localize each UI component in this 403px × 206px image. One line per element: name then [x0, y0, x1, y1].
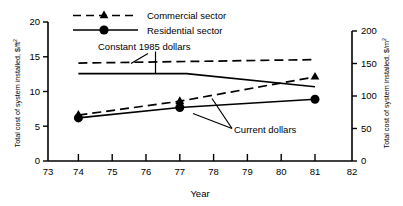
right-axis-title: Total cost of system installed, $/m2 [381, 18, 391, 168]
ytick-left-15: 15 [29, 51, 40, 62]
series-commercial-constant-dollars [78, 60, 315, 64]
x-axis: 73 74 75 76 77 78 79 80 81 82 Year [43, 154, 358, 199]
left-axis-title-text: Total cost of system installed, $/ft [13, 42, 22, 147]
legend-item-commercial: Commercial sector [73, 10, 226, 21]
legend-triangle-icon [100, 11, 109, 19]
ytick-left-5: 5 [35, 121, 40, 132]
left-axis: 20 15 10 5 0 [29, 16, 48, 166]
xtick-75: 75 [107, 166, 118, 177]
marker-triangle-81 [311, 72, 320, 80]
xtick-77: 77 [175, 166, 186, 177]
ytick-right-150: 150 [361, 58, 377, 69]
xtick-81: 81 [310, 166, 321, 177]
ytick-right-200: 200 [361, 25, 377, 36]
legend-label-commercial: Commercial sector [147, 10, 226, 21]
annotation-current-dollars: Current dollars [234, 124, 297, 135]
legend-item-residential: Residential sector [73, 25, 223, 36]
xtick-82: 82 [347, 166, 358, 177]
ytick-right-50: 50 [361, 123, 372, 134]
xtick-73: 73 [43, 166, 54, 177]
right-axis-title-text: Total cost of system installed, $/m [382, 41, 391, 148]
annotation-constant-dollars: Constant 1985 dollars [98, 41, 191, 52]
xtick-74: 74 [73, 166, 84, 177]
ytick-right-0: 0 [361, 155, 366, 166]
ytick-left-0: 0 [35, 155, 40, 166]
legend-circle-icon [99, 25, 108, 34]
xtick-78: 78 [208, 166, 219, 177]
marker-circle-77 [175, 103, 184, 112]
marker-circle-81 [311, 95, 320, 104]
x-axis-title: Year [190, 188, 209, 199]
right-axis: 200 150 100 50 0 [352, 25, 377, 166]
ytick-left-20: 20 [29, 16, 40, 27]
xtick-80: 80 [276, 166, 287, 177]
left-axis-title-sup: 2 [12, 39, 18, 42]
marker-circle-74 [74, 113, 83, 122]
ytick-left-10: 10 [29, 86, 40, 97]
chart-figure: 20 15 10 5 0 73 74 75 76 77 78 79 80 81 [0, 0, 403, 206]
right-axis-title-sup: 2 [381, 38, 387, 41]
ytick-right-100: 100 [361, 90, 377, 101]
xtick-79: 79 [242, 166, 253, 177]
annotation-current-dollars-leaders [193, 99, 232, 129]
chart-canvas: 20 15 10 5 0 73 74 75 76 77 78 79 80 81 [0, 0, 403, 206]
legend-label-residential: Residential sector [147, 25, 223, 36]
legend: Commercial sector Residential sector [73, 10, 226, 36]
series-commercial-current-dollars [74, 72, 319, 118]
xtick-76: 76 [141, 166, 152, 177]
series-residential-constant-dollars [78, 74, 315, 87]
left-axis-title: Total cost of system installed, $/ft2 [12, 18, 22, 168]
